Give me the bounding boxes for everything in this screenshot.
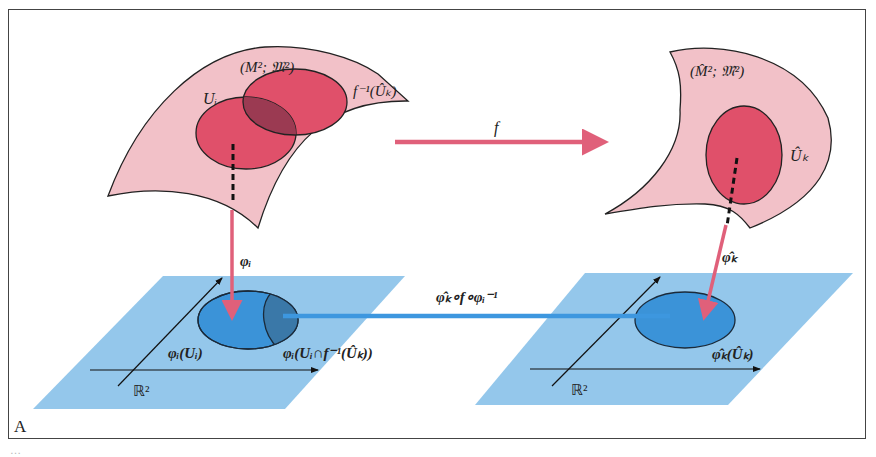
right-manifold-label: (M̂²; 𝔐̂²): [690, 63, 744, 80]
panel-label: A: [14, 417, 27, 436]
right-manifold: (M̂²; 𝔐̂²) Ûₖ: [605, 48, 831, 228]
f-label: f: [494, 119, 501, 137]
intersection-image-label: φᵢ(Uᵢ∩f⁻¹(Ûₖ)): [283, 345, 373, 362]
figure-caption-partial: …: [10, 444, 23, 457]
left-plane: φᵢ(Uᵢ) φᵢ(Uᵢ∩f⁻¹(Ûₖ)) ℝ²: [33, 276, 405, 409]
map-f: f: [395, 119, 600, 142]
phi-i-label: φᵢ: [240, 253, 251, 269]
phi-hat-k-label: φ̂ₖ: [722, 249, 739, 265]
uk-label: Ûₖ: [790, 146, 809, 164]
left-manifold-label: (M²; 𝔐²): [240, 59, 294, 76]
transition-label: φ̂ₖ∘f∘φᵢ⁻¹: [436, 289, 498, 305]
image-uk-label: φ̂ₖ(Ûₖ): [712, 346, 754, 363]
chart-domain-ellipse-uk: [706, 106, 782, 204]
r2-label-left: ℝ²: [133, 383, 150, 399]
right-plane: φ̂ₖ(Ûₖ) ℝ²: [475, 273, 853, 405]
image-ellipse-uk: [635, 292, 735, 348]
r2-label-right: ℝ²: [571, 382, 588, 398]
left-manifold: (M²; 𝔐²) Uᵢ f⁻¹(Ûₖ): [108, 47, 408, 228]
preimage-label: f⁻¹(Ûₖ): [353, 83, 397, 100]
ui-label: Uᵢ: [203, 90, 217, 107]
image-ui-label: φᵢ(Uᵢ): [168, 345, 203, 362]
